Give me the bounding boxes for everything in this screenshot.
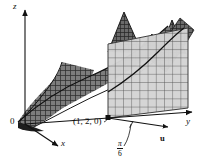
origin-label: 0 (10, 117, 15, 126)
u-vector-label: u (160, 134, 165, 143)
figure-canvas (0, 0, 202, 163)
z-axis-label: z (13, 2, 17, 11)
y-axis-label: y (186, 117, 190, 126)
point-label: (1, 2, 0) (73, 117, 102, 126)
directional-derivative-figure: z y x 0 (1, 2, 0) u π 6 (0, 0, 202, 163)
point-marker (106, 115, 111, 120)
angle-denominator: 6 (117, 150, 123, 158)
angle-fraction-label: π 6 (117, 140, 123, 157)
angle-numerator: π (117, 140, 123, 148)
x-axis-label: x (61, 139, 65, 148)
